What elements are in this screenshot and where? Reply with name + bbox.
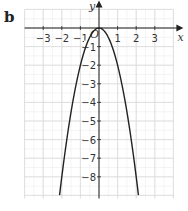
y-axis-arrow-icon [96,0,103,7]
y-tick-label: −1 [81,42,96,53]
y-tick-label: −6 [81,135,96,146]
parabola-chart: xyO−3−2−1123−1−2−3−4−5−6−7−8 [0,0,188,211]
y-tick-label: −3 [81,79,96,90]
x-tick-label: 3 [152,33,158,44]
y-axis-label: y [88,0,96,13]
y-tick-label: −8 [81,172,96,183]
y-tick-label: −4 [81,97,96,108]
y-tick-label: −7 [81,153,96,164]
x-tick-label: −3 [36,33,51,44]
x-tick-label: 1 [114,33,120,44]
y-tick-label: −5 [81,116,96,127]
x-tick-label: 2 [133,33,139,44]
x-axis-label: x [177,31,184,44]
y-tick-label: −2 [81,60,96,71]
x-tick-label: −2 [54,33,69,44]
